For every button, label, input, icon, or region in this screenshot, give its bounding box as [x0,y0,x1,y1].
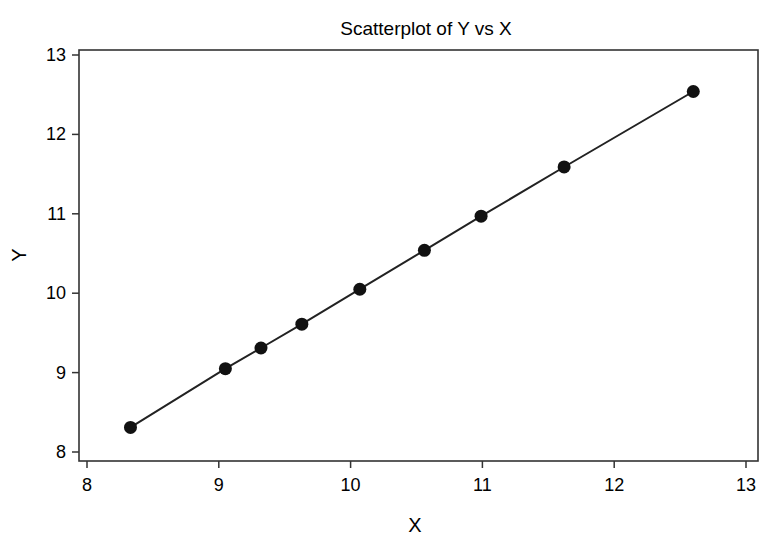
y-tick-label: 12 [46,124,66,144]
y-tick-label: 9 [56,363,66,383]
y-tick-label: 11 [47,204,66,224]
data-point-marker [254,341,267,354]
plot-frame [79,50,758,461]
scatterplot-chart: Scatterplot of Y vs X 8910111213 8910111… [0,0,778,549]
data-point-marker [295,318,308,331]
data-point-marker [124,421,137,434]
x-tick-label: 9 [214,475,224,495]
x-axis-label: X [408,514,421,536]
chart-title: Scatterplot of Y vs X [340,18,512,39]
x-tick-label: 10 [341,475,361,495]
data-point-marker [687,85,700,98]
data-point-marker [558,160,571,173]
connecting-line [131,92,694,428]
data-point-marker [353,283,366,296]
x-tick-label: 13 [736,475,756,495]
data-point-marker [475,210,488,223]
y-axis-label: Y [8,248,30,261]
x-tick-label: 11 [473,475,492,495]
y-axis: 8910111213 [46,45,79,462]
y-tick-label: 8 [56,442,66,462]
x-axis: 8910111213 [82,461,756,495]
data-point-marker [418,244,431,257]
x-tick-label: 8 [82,475,92,495]
x-tick-label: 12 [604,475,624,495]
data-point-marker [219,362,232,375]
y-tick-label: 10 [46,283,66,303]
y-tick-label: 13 [46,45,66,65]
